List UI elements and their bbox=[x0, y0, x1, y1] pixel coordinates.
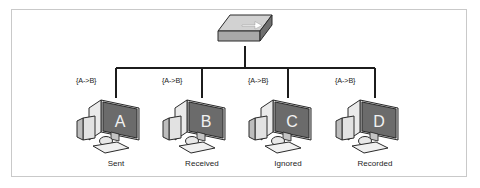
screen-letter-a: A bbox=[115, 113, 126, 130]
node-b: B Received bbox=[159, 96, 245, 168]
computer-icon-a: A bbox=[73, 96, 159, 158]
node-caption-a: Sent bbox=[73, 159, 159, 168]
node-caption-b: Received bbox=[159, 159, 245, 168]
screen-letter-b: B bbox=[201, 113, 212, 130]
screen-letter-d: D bbox=[373, 113, 385, 130]
network-switch-icon bbox=[214, 12, 276, 48]
packet-label-c: {A->B} bbox=[248, 76, 268, 85]
node-a: A Sent bbox=[73, 96, 159, 168]
node-caption-c: Ignored bbox=[245, 159, 331, 168]
node-caption-d: Recorded bbox=[332, 159, 418, 168]
computer-icon-c: C bbox=[245, 96, 331, 158]
computer-icon-b: B bbox=[159, 96, 245, 158]
node-c: C Ignored bbox=[245, 96, 331, 168]
node-d: D Recorded bbox=[332, 96, 418, 168]
screen-letter-c: C bbox=[286, 113, 298, 130]
packet-label-d: {A->B} bbox=[335, 76, 355, 85]
packet-label-b: {A->B} bbox=[162, 76, 182, 85]
figure-container: A Sent {A->B} B bbox=[0, 0, 480, 188]
computer-icon-d: D bbox=[332, 96, 418, 158]
packet-label-a: {A->B} bbox=[76, 76, 96, 85]
